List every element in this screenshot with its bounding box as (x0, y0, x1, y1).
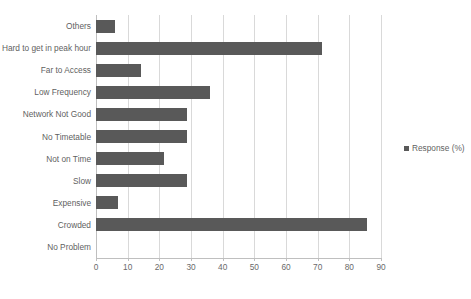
x-tick-label: 20 (155, 262, 164, 272)
category-label: No Problem (47, 240, 91, 254)
bar-chart: OthersHard to get in peak hourFar to Acc… (0, 0, 471, 299)
category-label: Hard to get in peak hour (2, 41, 91, 55)
tick-mark-60 (286, 258, 287, 261)
legend-label: Response (%) (412, 143, 465, 153)
category-label: Far to Access (41, 63, 91, 77)
bar-row (96, 37, 381, 59)
category-label: Others (66, 19, 91, 33)
plot-area: OthersHard to get in peak hourFar to Acc… (96, 15, 381, 258)
category-label: Expensive (53, 196, 91, 210)
x-tick-label: 30 (186, 262, 195, 272)
category-label: No Timetable (42, 130, 91, 144)
x-tick-label: 60 (281, 262, 290, 272)
x-tick-label: 50 (250, 262, 259, 272)
tick-mark-70 (318, 258, 319, 261)
bar-row (96, 214, 381, 236)
bar (96, 108, 187, 121)
bar-row (96, 148, 381, 170)
chart-title-clipped (0, 0, 471, 6)
tick-mark-90 (381, 258, 382, 261)
bar (96, 174, 187, 187)
bar-row (96, 15, 381, 37)
category-label: Slow (73, 174, 91, 188)
bar (96, 152, 164, 165)
x-tick-label: 90 (376, 262, 385, 272)
bar-row (96, 170, 381, 192)
tick-mark-30 (191, 258, 192, 261)
bar (96, 86, 210, 99)
x-axis-line (96, 258, 381, 259)
x-tick-label: 40 (218, 262, 227, 272)
bar-row (96, 59, 381, 81)
bar (96, 130, 187, 143)
tick-mark-40 (223, 258, 224, 261)
bar-row (96, 125, 381, 147)
legend-swatch-icon (404, 146, 409, 151)
category-label: Not on Time (46, 152, 91, 166)
x-tick-label: 70 (313, 262, 322, 272)
bar-row (96, 192, 381, 214)
category-label: Crowded (58, 218, 91, 232)
bar (96, 218, 367, 231)
tick-mark-20 (159, 258, 160, 261)
chart-legend: Response (%) (404, 143, 465, 153)
bar (96, 42, 322, 55)
gridline-90 (381, 15, 382, 258)
tick-mark-80 (349, 258, 350, 261)
tick-mark-50 (254, 258, 255, 261)
tick-mark-0 (96, 258, 97, 261)
bar (96, 196, 118, 209)
bar-row (96, 236, 381, 258)
category-label: Low Frequency (34, 85, 91, 99)
x-tick-label: 80 (345, 262, 354, 272)
x-tick-label: 10 (123, 262, 132, 272)
bar (96, 20, 115, 33)
x-tick-label: 0 (94, 262, 99, 272)
bar-row (96, 81, 381, 103)
category-label: Network Not Good (23, 107, 91, 121)
bar (96, 64, 141, 77)
tick-mark-10 (128, 258, 129, 261)
bar-row (96, 103, 381, 125)
